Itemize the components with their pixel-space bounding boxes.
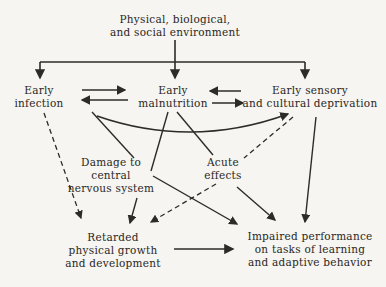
edge-acute-impaired xyxy=(237,187,275,220)
node-impaired-performance-line: Impaired performance xyxy=(248,230,373,243)
node-retarded-growth-line: physical growth xyxy=(65,244,160,257)
node-acute-effects-line: effects xyxy=(204,169,241,182)
diagram-stage: Physical, biological, and social environ… xyxy=(0,0,386,287)
edge-infection-cns xyxy=(92,112,134,158)
edge-infection-deprivation xyxy=(97,114,288,132)
edge-cns-impaired xyxy=(153,176,237,224)
edge-deprivation-retarded-a xyxy=(244,117,293,158)
node-environment-line: Physical, biological, xyxy=(110,13,240,26)
node-early-sensory-deprivation: Early sensory and cultural deprivation xyxy=(243,84,378,110)
node-early-malnutrition: Early malnutrition xyxy=(138,84,207,110)
node-cns-damage: Damage to central nervous system xyxy=(68,156,154,195)
node-impaired-performance: Impaired performance on tasks of learnin… xyxy=(248,230,373,269)
node-cns-damage-line: Damage to xyxy=(68,156,154,169)
node-impaired-performance-line: on tasks of learning xyxy=(248,243,373,256)
edge-deprivation-retarded-b xyxy=(151,184,216,222)
node-early-malnutrition-line: Early xyxy=(138,84,207,97)
node-early-sensory-deprivation-line: Early sensory xyxy=(243,84,378,97)
edge-deprivation-impaired xyxy=(305,117,316,222)
node-acute-effects: Acute effects xyxy=(204,156,241,182)
node-acute-effects-line: Acute xyxy=(204,156,241,169)
node-early-infection: Early infection xyxy=(14,84,63,110)
node-cns-damage-line: central xyxy=(68,169,154,182)
node-environment: Physical, biological, and social environ… xyxy=(110,13,240,39)
node-retarded-growth-line: and development xyxy=(65,257,160,270)
edge-malnutrition-acute xyxy=(177,112,213,155)
node-environment-line: and social environment xyxy=(110,26,240,39)
node-early-sensory-deprivation-line: and cultural deprivation xyxy=(243,97,378,110)
node-early-infection-line: Early xyxy=(14,84,63,97)
node-cns-damage-line: nervous system xyxy=(68,182,154,195)
node-retarded-growth-line: Retarded xyxy=(65,231,160,244)
node-retarded-growth: Retarded physical growth and development xyxy=(65,231,160,270)
node-impaired-performance-line: and adaptive behavior xyxy=(248,256,373,269)
node-early-infection-line: infection xyxy=(14,97,63,110)
node-early-malnutrition-line: malnutrition xyxy=(138,97,207,110)
edge-cns-retarded xyxy=(130,198,137,223)
